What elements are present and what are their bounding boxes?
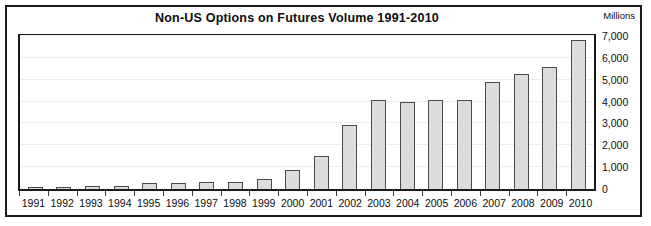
x-tick-label-2002: 2002 xyxy=(336,197,365,209)
x-tick-slot xyxy=(451,191,480,196)
bar-1994 xyxy=(114,186,129,189)
x-tick-mark xyxy=(365,191,366,196)
x-tick-label-2010: 2010 xyxy=(566,197,595,209)
x-tick-slot xyxy=(393,191,422,196)
x-tick-mark xyxy=(336,191,337,196)
bar-slot xyxy=(336,36,365,189)
bar-slot xyxy=(507,36,536,189)
bar-1998 xyxy=(228,182,243,189)
x-tick-slot xyxy=(221,191,250,196)
bar-2009 xyxy=(542,67,557,189)
bar-slot xyxy=(250,36,279,189)
x-tick-mark xyxy=(163,191,164,196)
x-tick-slot xyxy=(365,191,394,196)
bar-slot xyxy=(307,36,336,189)
bar-slot xyxy=(21,36,50,189)
y-axis-unit-label: Millions xyxy=(603,10,635,21)
y-tick-label: 6,000 xyxy=(602,52,628,64)
x-tick-label-1998: 1998 xyxy=(221,197,250,209)
x-tick-slot xyxy=(192,191,221,196)
chart-panel: Non-US Options on Futures Volume 1991-20… xyxy=(5,5,642,217)
x-tick-mark xyxy=(537,191,538,196)
x-tick-slot xyxy=(509,191,538,196)
x-tick-label-2001: 2001 xyxy=(307,197,336,209)
x-tick-slot xyxy=(163,191,192,196)
bar-2006 xyxy=(457,100,472,189)
x-tick-mark xyxy=(451,191,452,196)
x-tick-mark xyxy=(77,191,78,196)
bar-2005 xyxy=(428,100,443,189)
bar-2010 xyxy=(571,40,586,189)
x-tick-slot xyxy=(134,191,163,196)
x-tick-slot xyxy=(422,191,451,196)
bar-slot xyxy=(564,36,593,189)
x-tick-label-2007: 2007 xyxy=(480,197,509,209)
x-tick-slot xyxy=(105,191,134,196)
x-tick-slot xyxy=(278,191,307,196)
x-tick-label-1991: 1991 xyxy=(19,197,48,209)
x-tick-mark xyxy=(480,191,481,196)
x-tick-mark xyxy=(278,191,279,196)
plot-area xyxy=(18,34,596,191)
bar-slot xyxy=(421,36,450,189)
bar-slot xyxy=(479,36,508,189)
y-tick-label: 7,000 xyxy=(602,30,628,42)
x-axis-ticks xyxy=(18,191,596,196)
x-tick-label-1995: 1995 xyxy=(134,197,163,209)
x-tick-label-2008: 2008 xyxy=(509,197,538,209)
bar-series xyxy=(20,36,594,189)
x-tick-mark xyxy=(566,191,567,196)
x-axis: 1991199219931994199519961997199819992000… xyxy=(18,191,596,215)
bar-slot xyxy=(50,36,79,189)
bar-1993 xyxy=(85,186,100,189)
y-tick-label: 5,000 xyxy=(602,74,628,86)
x-tick-label-1993: 1993 xyxy=(77,197,106,209)
bar-slot xyxy=(78,36,107,189)
y-tick-label: 4,000 xyxy=(602,96,628,108)
x-tick-mark xyxy=(19,191,20,196)
x-tick-slot xyxy=(480,191,509,196)
bar-slot xyxy=(364,36,393,189)
x-tick-slot xyxy=(307,191,336,196)
x-tick-slot xyxy=(19,191,48,196)
x-tick-mark xyxy=(509,191,510,196)
x-tick-label-2009: 2009 xyxy=(537,197,566,209)
bar-2008 xyxy=(514,74,529,189)
x-tick-mark xyxy=(192,191,193,196)
x-tick-slot xyxy=(249,191,278,196)
x-tick-mark xyxy=(105,191,106,196)
x-tick-label-1999: 1999 xyxy=(249,197,278,209)
bar-2004 xyxy=(400,102,415,189)
y-tick-label: 1,000 xyxy=(602,161,628,173)
bar-slot xyxy=(393,36,422,189)
y-tick-label: 2,000 xyxy=(602,139,628,151)
x-tick-mark xyxy=(249,191,250,196)
y-axis: 01,0002,0003,0004,0005,0006,0007,000 xyxy=(600,34,644,191)
page-title: Non-US Options on Futures Volume 1991-20… xyxy=(7,11,587,25)
x-tick-label-2004: 2004 xyxy=(393,197,422,209)
x-tick-mark xyxy=(307,191,308,196)
bar-slot xyxy=(278,36,307,189)
x-tick-label-2006: 2006 xyxy=(451,197,480,209)
x-tick-slot xyxy=(566,191,595,196)
bar-1999 xyxy=(257,179,272,189)
chart-header: Non-US Options on Futures Volume 1991-20… xyxy=(7,7,640,33)
bar-1996 xyxy=(171,183,186,189)
bar-slot xyxy=(536,36,565,189)
bar-1997 xyxy=(199,182,214,189)
y-tick-label: 3,000 xyxy=(602,117,628,129)
x-tick-label-2005: 2005 xyxy=(422,197,451,209)
bar-slot xyxy=(193,36,222,189)
x-tick-label-2000: 2000 xyxy=(278,197,307,209)
x-tick-mark xyxy=(221,191,222,196)
bar-1991 xyxy=(28,187,43,189)
x-axis-labels: 1991199219931994199519961997199819992000… xyxy=(18,197,596,209)
x-tick-label-2003: 2003 xyxy=(365,197,394,209)
y-tick-label: 0 xyxy=(602,183,608,195)
bar-2001 xyxy=(314,156,329,189)
bar-slot xyxy=(107,36,136,189)
bar-slot xyxy=(450,36,479,189)
x-tick-mark xyxy=(134,191,135,196)
bar-2002 xyxy=(342,125,357,189)
x-tick-label-1997: 1997 xyxy=(192,197,221,209)
